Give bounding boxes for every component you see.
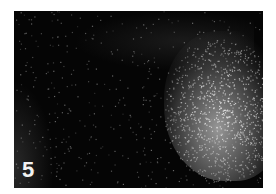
panel-label: 5 xyxy=(22,159,34,181)
micrograph-panel: 5 xyxy=(14,11,263,188)
speckle-texture xyxy=(14,11,263,188)
